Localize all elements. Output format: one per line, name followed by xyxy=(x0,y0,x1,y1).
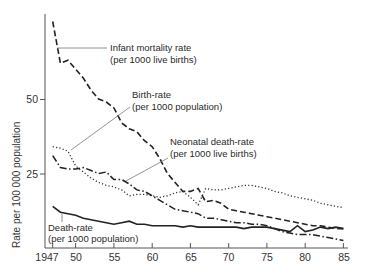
x-tick-75: 75 xyxy=(261,251,273,263)
x-tick-55: 55 xyxy=(109,251,121,263)
x-tick-65: 65 xyxy=(185,251,197,263)
x-ticks: 1947 50 55 60 65 70 75 80 85 xyxy=(35,243,350,263)
x-tick-80: 80 xyxy=(299,251,311,263)
label-neonatal-death-rate: Neonatal death-rate (per 1000 live birth… xyxy=(170,136,257,159)
svg-text:(per 1000 population): (per 1000 population) xyxy=(132,101,222,112)
y-tick-50: 50 xyxy=(26,93,38,105)
label-birth-rate: Birth-rate (per 1000 population) xyxy=(132,89,222,112)
svg-text:(per 1000 population): (per 1000 population) xyxy=(48,233,138,244)
x-tick-1947: 1947 xyxy=(35,251,59,263)
x-tick-60: 60 xyxy=(147,251,159,263)
svg-text:Neonatal death-rate: Neonatal death-rate xyxy=(170,136,254,147)
chart-canvas: 50 25 Rate per 100 000 population 1947 5… xyxy=(0,0,370,278)
birth-leader-line xyxy=(71,107,130,150)
y-tick-25: 25 xyxy=(26,168,38,180)
svg-text:Birth-rate: Birth-rate xyxy=(132,89,171,100)
svg-text:(per 1000 live births): (per 1000 live births) xyxy=(110,54,197,65)
label-infant-mortality: Infant mortality rate (per 1000 live bir… xyxy=(110,42,197,65)
neonatal-leader-line xyxy=(126,158,168,181)
svg-text:Infant mortality rate: Infant mortality rate xyxy=(110,42,191,53)
series-infant-mortality-line xyxy=(53,22,344,229)
x-tick-85: 85 xyxy=(338,251,350,263)
svg-text:(per 1000 live births): (per 1000 live births) xyxy=(170,148,257,159)
y-axis-label: Rate per 100 000 population xyxy=(11,122,22,248)
series-death-rate-line xyxy=(53,206,344,231)
x-tick-50: 50 xyxy=(70,251,82,263)
y-ticks: 50 25 xyxy=(26,93,45,180)
svg-text:Death-rate: Death-rate xyxy=(48,222,93,233)
label-death-rate: Death-rate (per 1000 population) xyxy=(48,222,138,244)
x-tick-70: 70 xyxy=(223,251,235,263)
